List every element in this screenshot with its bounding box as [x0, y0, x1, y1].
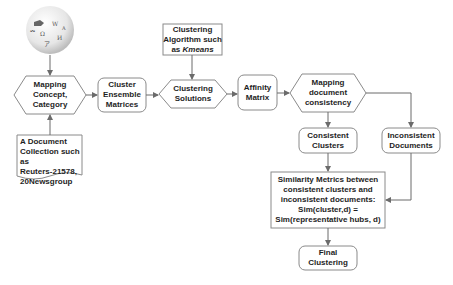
label-line: Collection such as — [20, 147, 83, 167]
svg-text:Ω: Ω — [40, 30, 45, 37]
label-line: Clustering — [173, 84, 213, 94]
label-line: 20Newsgroup — [20, 177, 72, 187]
label-line: Affinity — [244, 83, 272, 93]
arrow-inconsistent-to-similarity — [386, 153, 411, 200]
mapping-consistency-label: Mapping document consistency — [298, 74, 358, 112]
label-line: Final Clustering — [299, 248, 357, 268]
svg-text:ア: ア — [44, 40, 50, 47]
label-line: Mapping — [34, 80, 67, 90]
inconsistent-documents-label: Inconsistent Documents — [382, 128, 440, 153]
label-line: consistent clusters and — [283, 185, 372, 195]
label-line: Clusters — [312, 141, 344, 151]
svg-text:ꙍ: ꙍ — [30, 27, 35, 33]
affinity-matrix-label: Affinity Matrix — [238, 75, 277, 110]
label-line: Concept, — [33, 90, 67, 100]
label-line: Mapping — [312, 78, 345, 88]
label-line: Clustering — [173, 25, 213, 35]
label-line: inconsistent documents: — [281, 195, 376, 205]
wikipedia-globe-icon: Ω W И ア A ꙍ — [26, 6, 74, 54]
final-clustering-label: Final Clustering — [299, 246, 357, 270]
svg-text:И: И — [57, 34, 62, 41]
cluster-ensemble-label: Cluster Ensemble Matrices — [98, 78, 146, 112]
consistent-clusters-label: Consistent Clusters — [299, 128, 357, 153]
label-line: Matrix — [246, 93, 270, 103]
svg-text:W: W — [52, 20, 59, 27]
label-line: Sim(cluster,d) = — [298, 205, 358, 215]
label-line: A Document — [20, 137, 67, 147]
label-line: Algorithm such — [163, 35, 222, 45]
label-line: Similarity Metrics between — [278, 175, 378, 185]
mapping-concept-label: Mapping Concept, Category — [22, 76, 78, 114]
label-line: document — [309, 88, 347, 98]
label-line: Ensemble — [103, 90, 141, 100]
clustering-solutions-label: Clustering Solutions — [168, 80, 218, 108]
label-line: Cluster — [108, 80, 136, 90]
label-line: Sim(representative hubs, d) — [275, 215, 380, 225]
label-line: as Kmeans — [171, 45, 213, 55]
label-prefix: as — [171, 45, 182, 54]
label-kmeans: Kmeans — [183, 45, 214, 54]
label-line: Category — [33, 100, 68, 110]
document-collection-label: A Document Collection such as Reuters-21… — [17, 135, 83, 177]
svg-text:A: A — [61, 25, 66, 31]
label-line: consistency — [305, 98, 351, 108]
label-line: Solutions — [175, 94, 211, 104]
arrow-consistency-to-inconsistent — [366, 93, 411, 127]
label-line: Documents — [389, 141, 433, 151]
label-line: Consistent — [307, 131, 348, 141]
label-line: Matrices — [106, 100, 138, 110]
clustering-algorithm-label: Clustering Algorithm such as Kmeans — [163, 24, 222, 55]
similarity-metrics-label: Similarity Metrics between consistent cl… — [271, 172, 385, 228]
label-line: Reuters-21578, — [20, 167, 77, 177]
label-line: Inconsistent — [387, 131, 434, 141]
